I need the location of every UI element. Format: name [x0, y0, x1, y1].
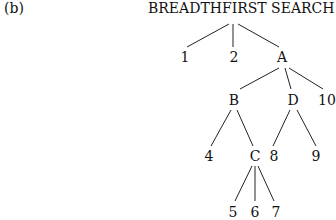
edge-A-D [285, 68, 291, 89]
node-7: 7 [272, 204, 281, 220]
node-4: 4 [205, 148, 214, 164]
edge-B-C [237, 110, 253, 146]
node-6: 6 [251, 204, 260, 220]
node-D: D [287, 92, 298, 108]
edge-root-A [238, 24, 279, 47]
node-10: 10 [318, 92, 336, 108]
edge-D-8 [273, 110, 290, 146]
node-1: 1 [181, 49, 190, 65]
node-A: A [277, 49, 287, 65]
node-9: 9 [312, 148, 321, 164]
node-B: B [229, 92, 239, 108]
edge-D-9 [297, 110, 316, 146]
edge-B-4 [211, 110, 231, 146]
edge-A-10 [289, 68, 323, 89]
edge-A-B [240, 68, 279, 89]
node-5: 5 [229, 204, 238, 220]
node-2: 2 [230, 49, 239, 65]
node-8: 8 [270, 148, 279, 164]
edge-C-5 [235, 166, 252, 201]
edge-root-1 [187, 24, 229, 47]
node-C: C [250, 148, 261, 164]
edge-C-7 [258, 166, 274, 201]
